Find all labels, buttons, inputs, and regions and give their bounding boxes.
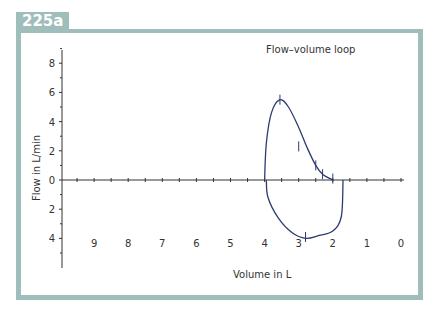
chart-title: Flow–volume loop	[266, 44, 355, 55]
loop-curve	[265, 100, 333, 180]
x-tick-label: 7	[159, 238, 165, 249]
y-ticks: 8642024	[49, 49, 62, 253]
y-tick-label: 8	[49, 58, 55, 69]
y-axis-label: Flow in L/min	[31, 135, 42, 201]
x-tick-label: 6	[193, 238, 199, 249]
x-tick-label: 9	[91, 238, 97, 249]
y-tick-label: 2	[49, 146, 55, 157]
x-tick-label: 5	[227, 238, 233, 249]
x-tick-label: 4	[261, 238, 267, 249]
x-axis-label: Volume in L	[233, 269, 292, 280]
x-tick-label: 2	[330, 238, 336, 249]
flow-volume-chart: Flow–volume loop 8642024 9876543210 Volu…	[0, 0, 439, 316]
x-ticks: 9876543210	[77, 178, 404, 249]
x-tick-label: 3	[296, 238, 302, 249]
y-tick-label: 4	[49, 233, 55, 244]
x-tick-label: 1	[364, 238, 370, 249]
loop-curve	[266, 180, 343, 238]
y-tick-label: 0	[49, 175, 55, 186]
x-tick-label: 8	[125, 238, 131, 249]
flow-volume-curves	[265, 95, 343, 242]
y-tick-label: 6	[49, 87, 55, 98]
x-tick-label: 0	[398, 238, 404, 249]
y-tick-label: 2	[49, 204, 55, 215]
y-tick-label: 4	[49, 117, 55, 128]
